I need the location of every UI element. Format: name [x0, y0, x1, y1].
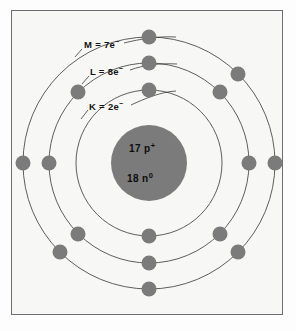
shell-label-l: L = 8e− — [90, 66, 123, 77]
figure-canvas: M = 7e− L = 8e− K = 2e− 17 p+ 18 n0 — [0, 0, 296, 331]
leader-tick-m — [75, 49, 82, 57]
electron — [71, 227, 86, 242]
nucleus-proton-count: 17 p — [129, 143, 151, 154]
electron — [142, 56, 157, 71]
shell-label-l-text: L = 8e — [90, 66, 119, 77]
nucleus-neutron-charge: 0 — [149, 171, 154, 180]
shell-label-k: K = 2e− — [89, 101, 123, 112]
nucleus-proton-charge: + — [151, 141, 156, 150]
electron — [42, 156, 57, 171]
leader-tick-l — [82, 76, 89, 84]
nucleus — [111, 125, 187, 201]
electron — [213, 85, 228, 100]
shell-label-m-superscript: − — [115, 38, 119, 45]
electron — [142, 256, 157, 271]
electron — [142, 30, 157, 45]
shell-label-k-text: K = 2e — [89, 101, 119, 112]
shell-label-l-superscript: − — [119, 65, 123, 72]
electron — [231, 67, 246, 82]
nucleus-proton-label: 17 p+ — [129, 143, 155, 154]
electron — [268, 156, 283, 171]
bohr-model-diagram — [0, 0, 296, 331]
nucleus-neutron-label: 18 n0 — [127, 173, 153, 184]
electron — [142, 229, 157, 244]
leader-tick-k — [81, 110, 88, 119]
electron — [71, 85, 86, 100]
electron — [231, 245, 246, 260]
electron — [142, 282, 157, 297]
shell-label-m: M = 7e− — [84, 39, 120, 50]
electron — [16, 156, 31, 171]
electron — [242, 156, 257, 171]
electron — [142, 83, 157, 98]
nucleus-neutron-count: 18 n — [127, 173, 149, 184]
electron — [53, 245, 68, 260]
shell-label-k-superscript: − — [119, 100, 123, 107]
shell-label-m-text: M = 7e — [84, 39, 115, 50]
electron — [213, 227, 228, 242]
